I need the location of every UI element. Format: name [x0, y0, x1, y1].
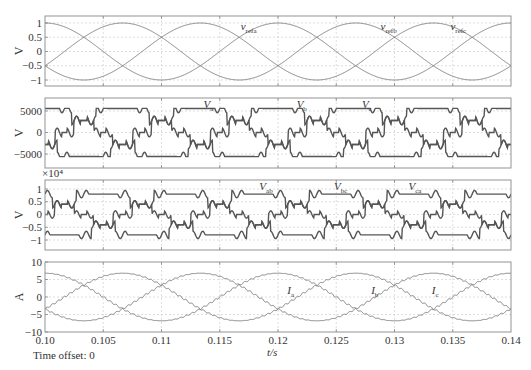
x-tick-label: 0.13 — [385, 334, 405, 346]
y-tick-label: −0.5 — [22, 221, 42, 233]
panel-2: VaVbVc50000−5000V — [12, 98, 511, 168]
y-tick-label: −1 — [30, 234, 42, 246]
y-tick-label: 0 — [37, 291, 43, 303]
y-tick-label: 0 — [37, 208, 43, 220]
y-tick-label: −5000 — [14, 148, 43, 160]
series-label-v-refa: vrefa — [241, 20, 258, 35]
x-tick-label: 0.14 — [501, 334, 521, 346]
y-axis-label: V — [12, 128, 26, 137]
y-tick-label: 10 — [31, 256, 43, 268]
y-tick-label: −5 — [30, 308, 42, 320]
y-scale-label: ×10⁴ — [42, 167, 63, 179]
series-label-i-a: Ia — [286, 284, 295, 299]
series-label-v-ab: Vab — [259, 180, 273, 195]
x-tick-label: 0.135 — [440, 334, 465, 346]
y-tick-label: 5000 — [20, 105, 43, 117]
y-tick-label: −0.5 — [22, 59, 42, 71]
series-label-v-refb: vrefb — [381, 20, 398, 35]
x-tick-label: 0.11 — [152, 334, 171, 346]
panel-3: VabVbcVca10.50−0.5−1V×10⁴ — [12, 167, 511, 250]
y-tick-label: 0 — [37, 45, 43, 57]
x-tick-label: 0.10 — [35, 334, 55, 346]
figure: vrefavrefbvrefc10.50−0.5−1VVaVbVc50000−5… — [0, 0, 531, 370]
plot-frame — [45, 16, 511, 86]
y-tick-label: 5 — [37, 273, 43, 285]
series-label-i-c: Ic — [431, 284, 439, 299]
panel-1: vrefavrefbvrefc10.50−0.5−1V — [12, 16, 511, 86]
panel-4: IaIbIc1050−5−10A — [12, 256, 511, 338]
y-tick-label: 1 — [37, 17, 43, 29]
y-tick-label: 0 — [37, 126, 43, 138]
x-tick-label: 0.115 — [208, 334, 233, 346]
y-axis-label: V — [12, 46, 26, 55]
x-axis-label: t/s — [267, 346, 277, 358]
y-axis-label: V — [12, 210, 26, 219]
time-offset-label: Time offset: 0 — [33, 349, 95, 361]
x-tick-label: 0.12 — [268, 334, 287, 346]
y-tick-label: 0.5 — [28, 31, 42, 43]
x-tick-label: 0.125 — [324, 334, 349, 346]
y-axis-label: A — [12, 292, 26, 301]
x-tick-label: 0.105 — [91, 334, 116, 346]
series-label-v-ca: Vca — [408, 180, 422, 195]
y-tick-label: −1 — [30, 74, 42, 86]
y-tick-label: 0.5 — [28, 195, 42, 207]
y-tick-label: 1 — [37, 183, 43, 195]
series-label-i-b: Ib — [370, 284, 379, 299]
x-axis: 0.100.1050.110.1150.120.1250.130.1350.14 — [35, 334, 521, 346]
